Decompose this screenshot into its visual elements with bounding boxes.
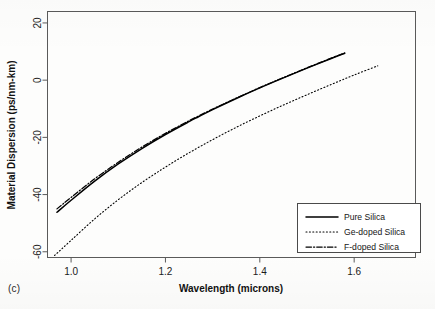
x-tick-label: 1.0 [64,266,78,277]
y-tick-label: -60 [32,244,43,259]
legend-entry-label: Ge-doped Silica [344,227,405,237]
panel-label: (c) [8,283,20,294]
chart-legend: Pure SilicaGe-doped SilicaF-doped Silica [298,204,421,253]
y-tick-label: 20 [32,17,43,29]
legend-entry-label: F-doped Silica [344,242,399,252]
material-dispersion-chart: 200-20-40-60 1.01.21.41.6 Material Dispe… [0,0,435,309]
y-axis-title: Material Dispersion (ps/nm-km) [6,61,17,210]
x-tick-label: 1.4 [253,266,267,277]
legend-entry-label: Pure Silica [344,212,385,222]
y-tick-label: -40 [32,187,43,202]
chart-background [0,0,435,309]
y-tick-label: 0 [32,77,43,83]
y-tick-label: -20 [32,130,43,145]
x-tick-label: 1.2 [158,266,172,277]
figure-panel: 200-20-40-60 1.01.21.41.6 Material Dispe… [0,0,435,309]
x-tick-label: 1.6 [347,266,361,277]
x-axis-title: Wavelength (microns) [179,283,283,294]
